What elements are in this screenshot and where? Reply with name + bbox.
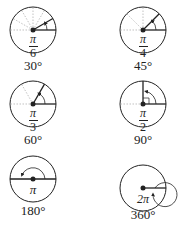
degree-label-45: 45° — [123, 58, 163, 74]
degree-label-60: 60° — [13, 132, 53, 148]
degree-label-90: 90° — [123, 132, 163, 148]
degree-label-360: 360° — [123, 207, 163, 223]
radian-label-30: π 6 — [13, 34, 53, 59]
radian-label-60: π 3 — [13, 108, 53, 133]
radian-label-180: π — [13, 182, 53, 198]
radian-label-90: π 2 — [123, 108, 163, 133]
degree-label-180: 180° — [13, 203, 53, 219]
degree-label-30: 30° — [13, 58, 53, 74]
radian-label-360: 2π — [123, 192, 163, 207]
radian-label-45: π 4 — [123, 34, 163, 59]
